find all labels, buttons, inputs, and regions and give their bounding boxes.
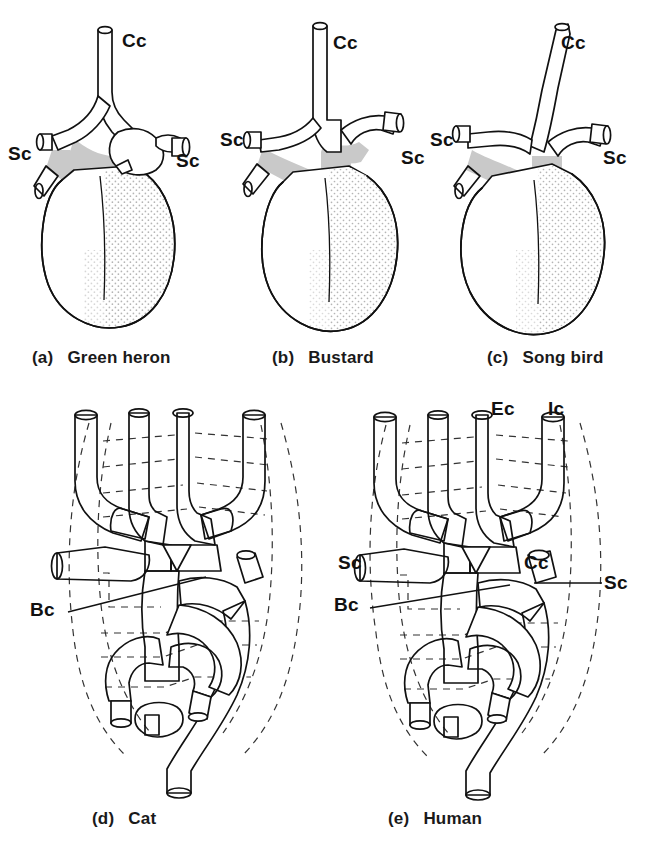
label-sc-left-bustard: Sc bbox=[220, 129, 244, 151]
bc-leader-line bbox=[370, 585, 510, 608]
caption-cat: (d)Cat bbox=[92, 809, 156, 829]
figure-root: Cc Sc Sc Cc Sc Sc Cc Sc Sc Bc Ec Ic Sc C… bbox=[0, 0, 660, 853]
label-cc-human: Cc bbox=[524, 552, 549, 574]
label-sc-right-songbird: Sc bbox=[603, 147, 627, 169]
caption-index: (e) bbox=[388, 809, 409, 828]
caption-human: (e)Human bbox=[388, 809, 482, 829]
label-bc-human: Bc bbox=[334, 594, 359, 616]
label-cc-heron: Cc bbox=[122, 30, 147, 52]
caption-bustard: (b)Bustard bbox=[272, 348, 374, 368]
label-sc-right-bustard: Sc bbox=[401, 147, 425, 169]
caption-text: Human bbox=[423, 809, 482, 828]
caption-index: (b) bbox=[272, 348, 294, 367]
label-bc-cat: Bc bbox=[30, 599, 55, 621]
caption-index: (d) bbox=[92, 809, 114, 828]
label-ec-human: Ec bbox=[491, 398, 515, 420]
caption-text: Cat bbox=[128, 809, 156, 828]
label-sc-right-heron: Sc bbox=[176, 150, 200, 172]
caption-song-bird: (c)Song bird bbox=[487, 348, 604, 368]
caption-index: (a) bbox=[32, 348, 53, 367]
caption-text: Bustard bbox=[308, 348, 374, 367]
caption-green-heron: (a)Green heron bbox=[32, 348, 171, 368]
caption-index: (c) bbox=[487, 348, 508, 367]
caption-text: Green heron bbox=[67, 348, 170, 367]
label-sc-left-heron: Sc bbox=[8, 143, 32, 165]
label-sc-left-human: Sc bbox=[338, 552, 362, 574]
caption-text: Song bird bbox=[522, 348, 603, 367]
label-ic-human: Ic bbox=[548, 398, 564, 420]
label-cc-bustard: Cc bbox=[333, 32, 358, 54]
song-bird-drawing bbox=[440, 0, 660, 340]
label-sc-left-songbird: Sc bbox=[430, 129, 454, 151]
panel-song-bird bbox=[440, 0, 660, 340]
label-sc-right-human: Sc bbox=[604, 572, 628, 594]
label-cc-songbird: Cc bbox=[561, 32, 586, 54]
